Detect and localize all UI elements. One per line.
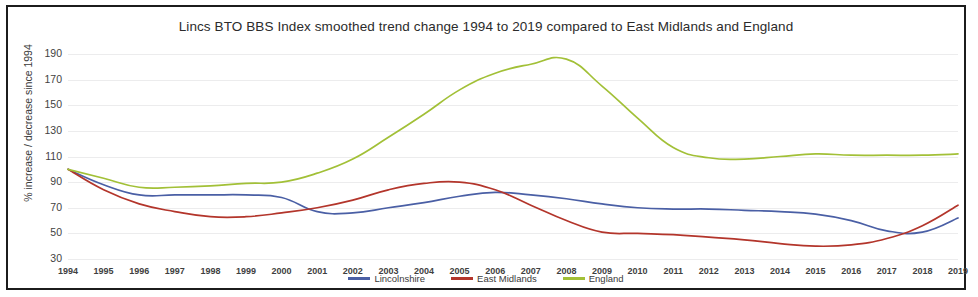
series-line-lincolnshire [68, 169, 958, 233]
legend-swatch-icon [451, 277, 473, 280]
legend-swatch-icon [348, 277, 370, 280]
series-lines [8, 7, 968, 292]
series-line-england [68, 57, 958, 188]
legend-swatch-icon [563, 277, 585, 280]
legend-label: England [589, 273, 624, 284]
legend-label: East Midlands [477, 273, 537, 284]
legend-item-lincolnshire[interactable]: Lincolnshire [348, 273, 425, 284]
legend-item-east-midlands[interactable]: East Midlands [451, 273, 537, 284]
legend-label: Lincolnshire [374, 273, 425, 284]
plot-area: % increase / decrease since 1994 1901701… [8, 7, 968, 292]
chart-frame: Lincs BTO BBS Index smoothed trend chang… [6, 5, 966, 290]
chart-legend: LincolnshireEast MidlandsEngland [8, 273, 964, 284]
series-line-east-midlands [68, 169, 958, 246]
legend-item-england[interactable]: England [563, 273, 624, 284]
